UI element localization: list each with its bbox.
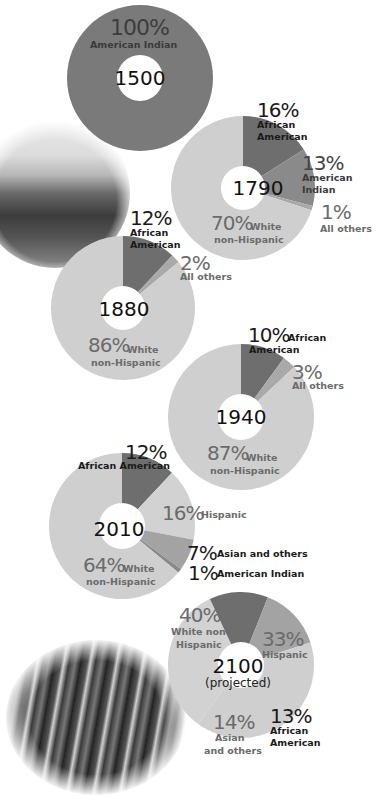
pie-2100-aa-cat1: African — [270, 726, 308, 736]
pie-2100-year: 2100 — [208, 654, 268, 678]
pie-1500-year: 1500 — [100, 66, 180, 90]
pie-1940-wh-cat1: White — [246, 453, 277, 463]
pie-1940-ot-pct: 3% — [292, 362, 322, 382]
pie-1500-pct: 100% — [110, 17, 169, 39]
pie-2100-aa-pct: 13% — [270, 706, 311, 726]
pie-1790-aa-cat2: American — [257, 132, 307, 142]
pie-2100-aa-cat2: American — [270, 738, 320, 748]
pie-1940-wh-pct: 87% — [207, 443, 248, 463]
pie-1880-ot-pct: 2% — [180, 253, 210, 273]
pie-1940-aa-cat1: African — [288, 333, 326, 343]
pie-1790-ai-pct: 13% — [302, 153, 343, 173]
pie-1790-wh-cat2: non-Hispanic — [214, 235, 284, 245]
pie-2100-wh-pct: 40% — [179, 605, 220, 625]
pie-1790-aa-cat1: African — [257, 120, 295, 130]
pie-2100-hi-pct: 33% — [262, 629, 303, 649]
pie-1940-wh-cat2: non-Hispanic — [210, 466, 280, 476]
pie-1880-year: 1880 — [94, 297, 154, 321]
pie-1880-aa-cat2: American — [130, 240, 180, 250]
pie-2100-as-cat1: Asian — [215, 733, 244, 743]
pie-1940-ot-cat: All others — [292, 381, 344, 391]
pie-2010-hi-pct: 16% — [162, 503, 203, 523]
pie-2100-as-cat2: and others — [204, 746, 262, 756]
pie-2010-aa-cat: African American — [78, 461, 170, 471]
pie-1500-category: American Indian — [90, 40, 177, 50]
pie-1940-aa-pct: 10% — [248, 325, 289, 345]
pie-2010-aa-pct: 12% — [125, 442, 166, 462]
pie-2100-wh-cat1: White non- — [171, 627, 230, 637]
pie-2010-as-pct: 7% — [187, 543, 217, 563]
pie-2010-hi-cat: Hispanic — [201, 510, 247, 520]
pie-1940-aa-cat2: American — [249, 345, 299, 355]
pie-1940-year: 1940 — [211, 405, 271, 429]
pie-1880-ot-cat: All others — [180, 272, 232, 282]
pie-2100-wh-cat2: Hispanic — [176, 640, 222, 650]
pie-1790-wh-pct: 70% — [211, 213, 252, 233]
pie-1790-year: 1790 — [228, 176, 288, 200]
pie-1880-wh-pct: 86% — [88, 335, 129, 355]
pie-2100-as-pct: 14% — [213, 712, 254, 732]
pie-1790-ot-pct: 1% — [321, 202, 351, 222]
pie-2100-projected: (projected) — [198, 676, 278, 690]
pie-2010-ai-pct: 1% — [188, 563, 218, 583]
pie-2010-wh-cat1: White — [123, 564, 154, 574]
pie-2010-wh-pct: 64% — [83, 555, 124, 575]
pie-2010-ai-cat: American Indian — [217, 569, 304, 579]
pie-1880-wh-cat2: non-Hispanic — [91, 358, 161, 368]
pie-1880-aa-pct: 12% — [130, 208, 171, 228]
pie-2010-as-cat: Asian and others — [217, 549, 308, 559]
pie-2100-hi-cat: Hispanic — [262, 650, 308, 660]
pie-2010-year: 2010 — [89, 517, 149, 541]
pie-1880-aa-cat1: African — [130, 228, 168, 238]
pie-1790-ot-cat: All others — [320, 224, 372, 234]
pie-2010-wh-cat2: non-Hispanic — [86, 577, 156, 587]
pie-1880-wh-cat1: White — [127, 345, 158, 355]
pie-1790-ai-cat1: American — [302, 173, 352, 183]
pie-1790-wh-cat1: White — [250, 222, 281, 232]
pie-1790-aa-pct: 16% — [257, 100, 298, 120]
pie-1790-ai-cat2: Indian — [302, 185, 336, 195]
